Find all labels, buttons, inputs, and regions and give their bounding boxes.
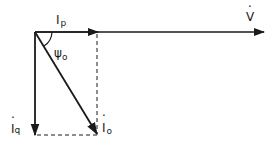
ip-label: Ip [56,13,67,28]
io-label: Io [102,121,113,136]
iq-dot: · [11,111,15,125]
io-phasor-arrow [35,32,97,134]
phasor-diagram: Ip V · ψo Iq · Io · [0,0,278,146]
psi-label: ψo [54,46,68,62]
v-dot: · [248,0,252,14]
io-dot: · [102,109,106,123]
angle-arc [44,32,52,46]
